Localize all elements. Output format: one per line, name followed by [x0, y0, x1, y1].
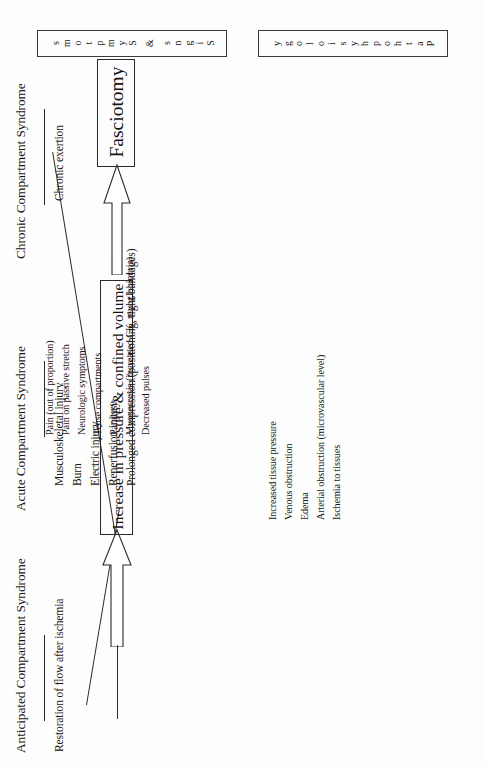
banner-letter: s [49, 38, 60, 49]
signs-and-symptoms-banner-text: Signs & Symptoms [49, 38, 215, 49]
signs-and-symptoms-banner: Signs & Symptoms [37, 30, 227, 57]
pathophysiology-banner-text: Pathophysiology [271, 38, 436, 49]
banner-letter: l [304, 38, 315, 49]
signs-symptom-decreased-pulses: Decreased pulses [141, 366, 152, 435]
column-header-chronic: Chronic Compartment Syndrome [14, 83, 28, 259]
banner-letter: m [104, 38, 115, 49]
outcome-node-label: Fasciotomy [98, 58, 136, 166]
banner-letter: o [71, 38, 82, 49]
outcome-node-box: Fasciotomy [97, 59, 135, 167]
diagram-page: Anticipated Compartment Syndrome Acute C… [0, 0, 483, 767]
patho-item-edema: Edema [300, 492, 311, 520]
signs-symptom-pain-out-of-proportion: Pain (out of proportion) [45, 340, 56, 435]
banner-letter: t [403, 38, 414, 49]
banner-letter: S [126, 38, 137, 49]
signs-symptom-pain-on-passive-stretch: Pain on passive stretch [61, 344, 72, 435]
banner-letter: h [359, 38, 370, 49]
cause-item-burn: Burn [72, 463, 84, 486]
patho-item-increased-tissue-pressure: Increased tissue pressure [268, 421, 279, 520]
banner-letter: i [326, 38, 337, 49]
banner-letter: g [182, 38, 193, 49]
diagram-canvas: Anticipated Compartment Syndrome Acute C… [0, 0, 483, 767]
banner-letter: s [337, 38, 348, 49]
column-header-anticipated: Anticipated Compartment Syndrome [14, 558, 28, 753]
banner-letter: o [381, 38, 392, 49]
banner-letter: g [282, 38, 293, 49]
banner-letter: m [60, 38, 71, 49]
header-rule-anticipated [44, 635, 45, 721]
column-header-acute: Acute Compartment Syndrome [14, 346, 28, 511]
banner-letter: h [392, 38, 403, 49]
banner-letter: p [93, 38, 104, 49]
banner-letter: S [204, 38, 215, 49]
banner-letter: o [315, 38, 326, 49]
patho-item-arterial-obstruction: Arterial obstruction (microvascular leve… [316, 355, 327, 520]
banner-letter: y [115, 38, 126, 49]
banner-letter: n [171, 38, 182, 49]
banner-letter: y [271, 38, 282, 49]
banner-letter: i [193, 38, 204, 49]
cause-item-chronic-exertion: Chronic exertion [54, 125, 66, 201]
banner-letter: p [370, 38, 381, 49]
banner-letter: P [425, 38, 436, 49]
banner-letter: y [348, 38, 359, 49]
signs-and-symptoms-banner-inner: Signs & Symptoms [49, 38, 215, 49]
header-rule-chronic [44, 109, 45, 205]
banner-letter: o [293, 38, 304, 49]
connector-acute-to-arrow [117, 645, 118, 719]
arrow-causes-to-center [100, 529, 134, 647]
patho-item-ischemia-to-tissues: Ischemia to tissues [332, 445, 343, 520]
banner-letter: a [414, 38, 425, 49]
patho-item-venous-obstruction: Venous obstruction [284, 443, 295, 520]
signs-symptom-myonecrosis: Myonecrosis (increased CK, myoglobinuria… [125, 257, 136, 435]
pathophysiology-banner: Pathophysiology [258, 30, 448, 57]
cause-item-restoration-of-flow: Restoration of flow after ischemia [54, 599, 66, 752]
signs-symptom-neurologic-symptoms: Neurologic symptoms [77, 347, 88, 435]
banner-letter: t [82, 38, 93, 49]
signs-symptom-tense-compartments: Tense compartments [93, 353, 104, 435]
signs-symptom-paralysis: Paralysis [109, 399, 120, 435]
pathophysiology-banner-inner: Pathophysiology [271, 38, 436, 49]
